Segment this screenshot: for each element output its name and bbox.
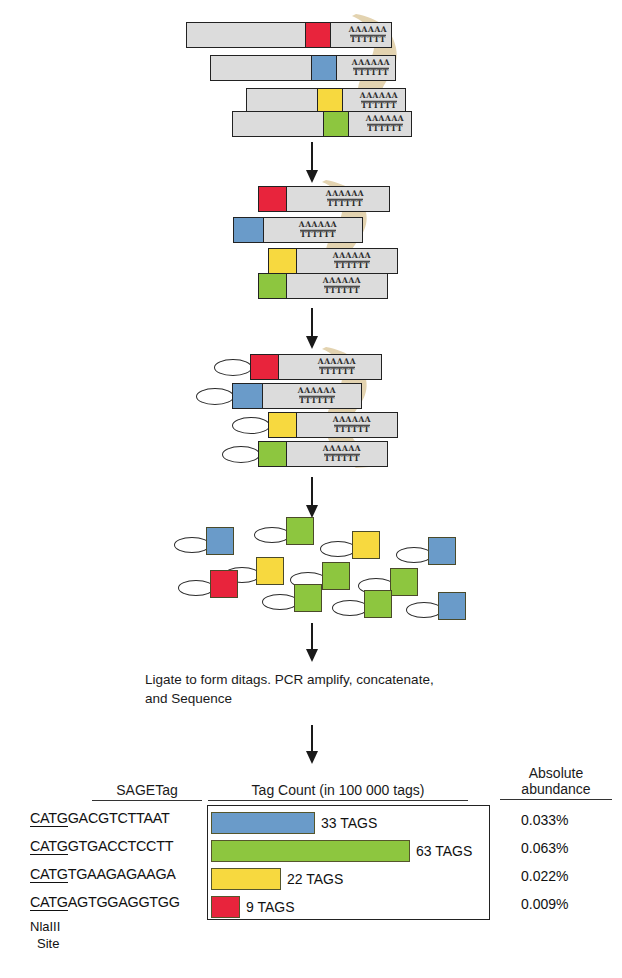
column-header-sagetag: SAGETag <box>92 782 202 801</box>
poly-a-top: AAAAAA <box>299 221 338 230</box>
cdna-spacer <box>263 384 273 408</box>
free-tag-yellow <box>256 557 284 585</box>
poly-a-tail: AAAAAA TTTTTT <box>353 89 405 113</box>
poly-a-tail: AAAAAA TTTTTT <box>345 23 391 47</box>
abundance-value-1: 0.033% <box>521 812 568 828</box>
poly-t-bottom: TTTTTT <box>299 395 335 405</box>
bar-label-1: 33 TAGS <box>321 815 377 831</box>
poly-t-bottom: TTTTTT <box>353 67 389 77</box>
tag-segment-red <box>305 23 331 47</box>
nlaiii-footnote-line-1: NlaIII <box>30 918 60 935</box>
bar-label-4: 9 TAGS <box>246 899 295 915</box>
cdna-spacer <box>343 89 353 113</box>
linker-ellipse <box>332 600 368 616</box>
sequence-rest-4: AGTGGAGGTGG <box>68 894 180 910</box>
cdna-spacer <box>297 249 307 273</box>
poly-a-tail: AAAAAA TTTTTT <box>307 249 397 273</box>
poly-t-bottom: TTTTTT <box>300 229 336 239</box>
free-tag-green <box>294 584 322 612</box>
construct-panel3-yellow: AAAAAA TTTTTT <box>268 412 398 438</box>
poly-t-bottom: TTTTTT <box>324 285 360 295</box>
flow-arrow-5 <box>303 725 321 764</box>
construct-panel1-green: AAAAAA TTTTTT <box>232 111 412 137</box>
poly-t-bottom: TTTTTT <box>367 123 403 133</box>
caption-line-1: Ligate to form ditags. PCR amplify, conc… <box>145 670 505 689</box>
poly-a-top: AAAAAA <box>352 59 391 68</box>
header-abundance-line-1: Absolute <box>500 765 612 781</box>
cdna-spacer <box>287 442 297 466</box>
construct-panel1-blue: AAAAAA TTTTTT <box>210 55 396 81</box>
sequence-row-2: CATGGTGACCTCCTT <box>30 838 173 854</box>
nlaiii-footnote-line-2: Site <box>30 935 60 952</box>
cdna-body <box>211 56 311 80</box>
poly-a-top: AAAAAA <box>333 416 372 425</box>
tag-segment-green <box>323 112 349 136</box>
poly-a-top: AAAAAA <box>323 277 362 286</box>
free-tag-blue <box>438 592 466 620</box>
poly-t-bottom: TTTTTT <box>361 100 397 110</box>
poly-a-tail: AAAAAA TTTTTT <box>273 384 361 408</box>
sequence-rest-3: TGAAGAGAAGA <box>68 866 176 882</box>
linker-ellipse-blue <box>196 388 234 405</box>
poly-a-top: AAAAAA <box>333 252 372 261</box>
nlaiii-site-3: CATG <box>30 866 68 883</box>
cdna-spacer <box>337 56 347 80</box>
caption-line-2: and Sequence <box>145 689 505 708</box>
poly-a-tail: AAAAAA TTTTTT <box>274 218 362 242</box>
column-header-abundance: Absolute abundance <box>500 765 612 800</box>
construct-panel2-blue: AAAAAA TTTTTT <box>233 217 363 243</box>
process-caption: Ligate to form ditags. PCR amplify, conc… <box>145 670 505 708</box>
tag-segment-red <box>259 187 287 211</box>
free-tag-green <box>322 562 350 590</box>
poly-a-top: AAAAAA <box>326 190 365 199</box>
poly-a-top: AAAAAA <box>318 358 357 367</box>
nlaiii-site-1: CATG <box>30 810 68 827</box>
poly-a-tail: AAAAAA TTTTTT <box>297 274 387 298</box>
construct-panel2-yellow: AAAAAA TTTTTT <box>268 248 398 274</box>
poly-a-tail: AAAAAA TTTTTT <box>297 442 387 466</box>
tag-segment-blue <box>233 384 263 408</box>
poly-a-tail: AAAAAA TTTTTT <box>347 56 395 80</box>
free-tag-yellow <box>352 531 380 559</box>
poly-t-bottom: TTTTTT <box>319 366 355 376</box>
flow-arrow-2 <box>303 308 321 349</box>
linker-ellipse <box>320 541 356 557</box>
poly-a-tail: AAAAAA TTTTTT <box>359 112 411 136</box>
nlaiii-site-footnote: NlaIII Site <box>30 918 60 952</box>
linker-ellipse <box>396 547 432 563</box>
linker-ellipse-green <box>222 446 260 463</box>
flow-arrow-1 <box>303 142 321 183</box>
cdna-spacer <box>287 274 297 298</box>
tag-segment-blue <box>234 218 264 242</box>
cdna-spacer <box>297 413 307 437</box>
linker-ellipse <box>254 527 290 543</box>
free-tag-red <box>210 570 238 598</box>
header-abundance-line-2: abundance <box>500 781 612 800</box>
header-sagetag-text: SAGETag <box>92 782 202 801</box>
construct-panel3-blue: AAAAAA TTTTTT <box>232 383 362 409</box>
poly-a-top: AAAAAA <box>360 92 399 101</box>
cdna-spacer <box>279 355 293 379</box>
free-tag-green <box>364 590 392 618</box>
sequence-row-1: CATGGACGTCTTAAT <box>30 810 169 826</box>
poly-t-bottom: TTTTTT <box>334 424 370 434</box>
construct-panel3-red: AAAAAA TTTTTT <box>250 354 382 380</box>
cdna-spacer <box>287 187 301 211</box>
construct-panel2-red: AAAAAA TTTTTT <box>258 186 390 212</box>
free-tag-blue <box>428 537 456 565</box>
bar-row-1 <box>211 812 315 834</box>
linker-ellipse <box>262 594 298 610</box>
free-tag-green <box>286 517 314 545</box>
sequence-rest-1: GACGTCTTAAT <box>68 810 170 826</box>
figure-canvas: AAAAAA TTTTTT AAAAAA TTTTTT AAAAAA TTTTT… <box>0 0 622 978</box>
sequence-row-4: CATGAGTGGAGGTGG <box>30 894 180 910</box>
tag-segment-blue <box>311 56 337 80</box>
nlaiii-site-2: CATG <box>30 838 68 855</box>
linker-ellipse <box>406 602 442 618</box>
poly-t-bottom: TTTTTT <box>350 34 386 44</box>
tag-segment-red <box>251 355 279 379</box>
free-tag-blue <box>206 527 234 555</box>
cdna-body <box>247 89 317 113</box>
linker-ellipse-yellow <box>232 417 270 434</box>
construct-panel1-red: AAAAAA TTTTTT <box>186 22 392 48</box>
